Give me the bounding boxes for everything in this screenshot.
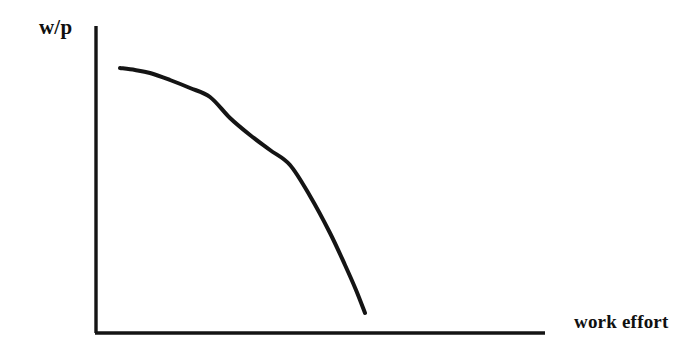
y-axis-label: w/p	[39, 15, 72, 39]
chart-plot-area	[0, 0, 700, 355]
chart-figure: w/p work effort	[0, 0, 700, 355]
wage-effort-curve	[120, 68, 365, 313]
x-axis-label: work effort	[574, 310, 669, 334]
